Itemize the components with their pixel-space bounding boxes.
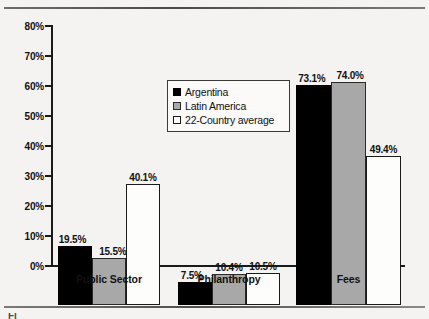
bar-argentina-fees: 73.1% xyxy=(296,85,331,305)
y-tick-label-60: 60% xyxy=(0,81,44,92)
y-tick-20 xyxy=(45,205,52,207)
y-tick-label-70: 70% xyxy=(0,51,44,62)
y-tick-50 xyxy=(45,115,52,117)
bar-label: 10.5% xyxy=(249,261,276,272)
bar-group-fees: 73.1% 74.0% 49.4% xyxy=(296,64,401,305)
bar-chart: 0% 10% 20% 30% 40% 50% 60% 70% 80% 19.5%… xyxy=(0,9,429,305)
legend-label: Argentina xyxy=(185,86,228,98)
page-rule-bottom xyxy=(4,306,425,308)
y-tick-label-10: 10% xyxy=(0,231,44,242)
y-tick-label-50: 50% xyxy=(0,111,44,122)
y-tick-70 xyxy=(45,55,52,57)
y-tick-label-30: 30% xyxy=(0,171,44,182)
x-category-label-philanthropy: Philanthropy xyxy=(178,273,280,285)
legend-entry-22-country-average: 22-Country average xyxy=(173,113,284,127)
y-tick-0 xyxy=(45,265,52,267)
x-category-label-public-sector: Public Sector xyxy=(58,273,160,285)
legend-entry-argentina: Argentina xyxy=(173,85,284,99)
legend-swatch-icon xyxy=(173,102,181,110)
bar-label: 74.0% xyxy=(336,70,363,81)
chart-legend: Argentina Latin America 22-Country avera… xyxy=(167,80,290,132)
y-tick-label-80: 80% xyxy=(0,21,44,32)
figure-caption-fragment: Fi xyxy=(8,313,38,319)
y-tick-80 xyxy=(45,25,52,27)
bar-label: 40.1% xyxy=(129,172,156,183)
bar-argentina-philanthropy: 7.5% xyxy=(178,282,212,305)
bar-label: 49.4% xyxy=(370,144,397,155)
y-tick-label-0: 0% xyxy=(0,261,44,272)
legend-swatch-icon xyxy=(173,116,181,124)
x-category-label-fees: Fees xyxy=(296,273,401,285)
legend-label: 22-Country average xyxy=(185,114,274,126)
y-tick-label-20: 20% xyxy=(0,201,44,212)
bar-label: 73.1% xyxy=(298,73,325,84)
y-tick-30 xyxy=(45,175,52,177)
bar-22-country-average-public-sector: 40.1% xyxy=(126,184,160,305)
y-tick-10 xyxy=(45,235,52,237)
y-tick-60 xyxy=(45,85,52,87)
bar-label: 19.5% xyxy=(59,234,86,245)
y-tick-40 xyxy=(45,145,52,147)
legend-entry-latin-america: Latin America xyxy=(173,99,284,113)
legend-label: Latin America xyxy=(185,100,246,112)
legend-swatch-icon xyxy=(173,88,181,96)
bar-latin-america-fees: 74.0% xyxy=(331,82,366,305)
y-tick-label-40: 40% xyxy=(0,141,44,152)
bar-label: 15.5% xyxy=(99,246,126,257)
bar-label: 10.4% xyxy=(215,262,242,273)
y-axis-labels: 0% 10% 20% 30% 40% 50% 60% 70% 80% xyxy=(0,9,44,305)
bar-group-public-sector: 19.5% 15.5% 40.1% xyxy=(58,64,160,305)
